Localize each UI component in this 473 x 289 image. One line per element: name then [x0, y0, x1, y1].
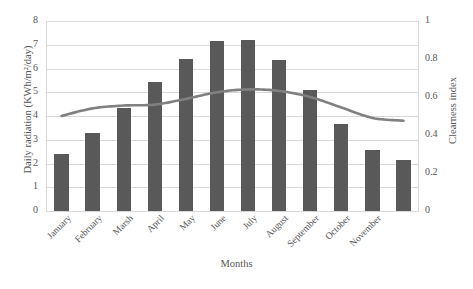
y-tick-label-left: 6	[4, 62, 38, 73]
x-axis-category-labels: JanuaryFebruaryMarshAprilMayJuneJulyAugu…	[46, 213, 419, 283]
y-tick-label-left: 8	[4, 14, 38, 25]
y-tick-label-right: 0.2	[425, 166, 465, 177]
line-series	[46, 21, 419, 211]
y-tick-label-left: 7	[4, 38, 38, 49]
clearness-index-line	[62, 89, 404, 120]
y-tick-label-left: 4	[4, 109, 38, 120]
y-tick-label-left: 1	[4, 180, 38, 191]
y-tick-label-right: 0.4	[425, 128, 465, 139]
y-tick-label-right: 0.6	[425, 90, 465, 101]
y-tick-label-right: 1	[425, 14, 465, 25]
y-tick-label-left: 2	[4, 157, 38, 168]
solar-radiation-chart: Daily radiation (KWh/m²/day) Clearness i…	[0, 0, 473, 289]
y-tick-label-left: 0	[4, 204, 38, 215]
y-tick-label-right: 0.8	[425, 52, 465, 63]
x-axis-title: Months	[0, 258, 473, 269]
y-tick-label-left: 5	[4, 85, 38, 96]
plot-area	[46, 21, 419, 211]
y-tick-label-left: 3	[4, 133, 38, 144]
y-tick-label-right: 0	[425, 204, 465, 215]
